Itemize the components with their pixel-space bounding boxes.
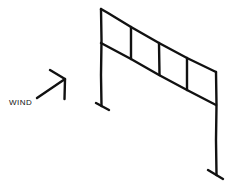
right-column bbox=[216, 72, 217, 175]
wind-label: WIND bbox=[9, 98, 32, 107]
wind-arrow-icon bbox=[37, 79, 65, 98]
left-column bbox=[101, 9, 102, 106]
portal-frame-sketch bbox=[0, 0, 234, 182]
panel-vertical-2 bbox=[159, 43, 160, 75]
